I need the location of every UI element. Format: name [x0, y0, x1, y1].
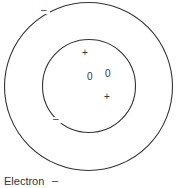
electron-inner: – — [53, 114, 59, 124]
neutron-1: 0 — [87, 72, 93, 82]
proton-2: + — [104, 92, 110, 102]
legend-label: Electron — [4, 176, 44, 187]
outer-shell — [5, 3, 173, 171]
legend-symbol: – — [52, 175, 58, 186]
electron-outer: – — [41, 5, 47, 15]
proton-1: + — [82, 48, 88, 58]
neutron-2: 0 — [105, 69, 111, 79]
atom-diagram — [0, 0, 177, 188]
